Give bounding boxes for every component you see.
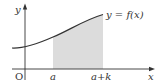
shaded-area: [53, 15, 103, 70]
x-axis-label: x: [148, 71, 154, 82]
tick-label-a-plus-k: a+k: [91, 71, 111, 82]
y-axis-label: y: [14, 4, 21, 15]
tick-label-a: a: [50, 71, 56, 82]
curve-label: y = f(x): [105, 9, 144, 20]
y-axis-arrow-icon: [23, 4, 27, 10]
origin-label: O: [15, 71, 23, 82]
function-graph: y O a a+k x y = f(x): [0, 0, 157, 83]
